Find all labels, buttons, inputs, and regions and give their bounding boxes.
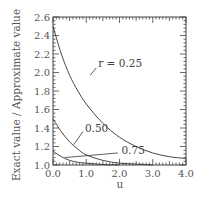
series-annotation: 0.75 <box>122 144 145 156</box>
x-tick-label: 3.0 <box>145 168 161 179</box>
x-tick-label: 1.0 <box>78 168 94 179</box>
y-tick-label: 1.6 <box>34 104 50 115</box>
leader-line <box>74 132 83 145</box>
leader-line <box>90 68 96 75</box>
y-tick-label: 1.4 <box>34 123 50 134</box>
plot-frame <box>53 17 186 165</box>
y-tick-labels: 1.01.21.41.61.82.02.22.42.6 <box>34 12 50 171</box>
y-tick-label: 1.8 <box>34 86 50 97</box>
x-tick-label: 0.0 <box>45 168 61 179</box>
y-tick-label: 1.2 <box>34 141 50 152</box>
axis-ticks <box>53 17 186 165</box>
y-axis-title: Exact value / Approximate value <box>10 9 22 181</box>
x-axis-title: u <box>117 178 124 190</box>
y-tick-label: 2.4 <box>34 30 50 41</box>
series-line-0 <box>53 26 186 158</box>
chart: r = 0.250.500.75 1.01.21.41.61.82.02.22.… <box>0 0 204 197</box>
data-series <box>53 26 186 165</box>
y-tick-label: 2.0 <box>34 67 50 78</box>
x-tick-label: 4.0 <box>178 168 194 179</box>
y-tick-label: 2.2 <box>34 49 50 60</box>
series-annotation: r = 0.25 <box>98 57 142 69</box>
y-tick-label: 2.6 <box>34 12 50 23</box>
series-annotation: 0.50 <box>85 122 108 134</box>
annotations: r = 0.250.500.75 <box>65 57 145 157</box>
